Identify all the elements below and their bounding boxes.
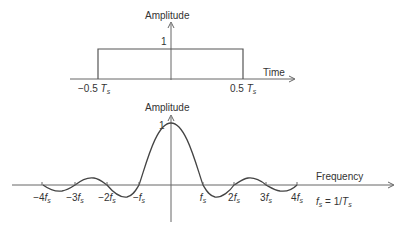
right-time-tick: 0.5 Ts: [230, 83, 257, 95]
bottom-y-axis-label: Amplitude: [145, 102, 190, 113]
amplitude-one-label: 1: [161, 36, 167, 47]
left-time-tick: −0.5 Ts: [78, 83, 111, 95]
sinc-curve: [43, 123, 297, 197]
frequency-axis-label: Frequency: [316, 171, 363, 182]
frequency-tick-label: −2fs: [98, 192, 116, 204]
frequency-tick-label: −fs: [133, 192, 146, 204]
frequency-tick-label: −4fs: [33, 192, 51, 204]
top-y-axis-label: Amplitude: [145, 10, 190, 21]
frequency-tick-label: 3fs: [260, 192, 272, 204]
frequency-tick-label: 2fs: [228, 192, 240, 204]
time-domain-plot: Amplitude Time 1 −0.5 Ts 0.5 Ts: [70, 10, 295, 95]
frequency-tick-label: −3fs: [66, 192, 84, 204]
frequency-tick-label: fs: [200, 192, 207, 204]
sinc-rect-diagram: Amplitude Time 1 −0.5 Ts 0.5 Ts Amplitud…: [0, 0, 409, 232]
fs-relation: fs = 1/Ts: [316, 196, 352, 208]
frequency-tick-label: 4fs: [291, 192, 303, 204]
time-axis-label: Time: [263, 67, 285, 78]
